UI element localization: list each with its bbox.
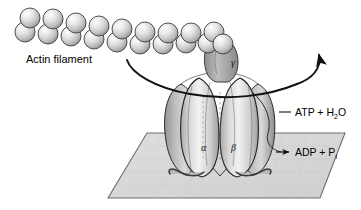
- actin-filament-label: Actin filament: [26, 53, 92, 65]
- atp-synthase-diagram: Actin filament γ α β ATP + H2O ADP + Pi: [0, 0, 361, 210]
- beta-subunit-label: β: [230, 142, 236, 153]
- adp-product-label: ADP + Pi: [295, 146, 337, 160]
- atp-label-tail: O: [338, 106, 346, 118]
- atp-reactant-label: ATP + H2O: [295, 106, 346, 120]
- actin-filament-beads: [15, 8, 233, 54]
- atp-label-main: ATP + H: [295, 106, 334, 118]
- alpha-subunit-label: α: [201, 142, 207, 153]
- adp-label-main: ADP + P: [295, 146, 335, 158]
- svg-text:ADP + Pi: ADP + Pi: [295, 146, 337, 160]
- svg-text:ATP + H2O: ATP + H2O: [295, 106, 346, 120]
